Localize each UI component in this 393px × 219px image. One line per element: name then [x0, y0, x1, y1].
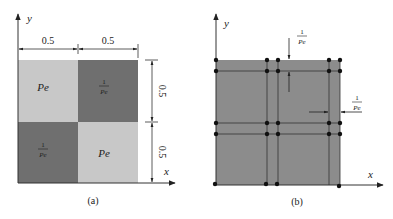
x-axis-label-b: x: [367, 168, 373, 180]
cell-frac-num: 1: [41, 141, 45, 149]
figure-a: y x 0.5 0.5 0.5 0.5 Pe 1 Pe 1 Pe Pe (a): [18, 12, 175, 207]
caption-a: (a): [87, 195, 98, 207]
cell-top-right: [78, 60, 138, 122]
x-axis-label-a: x: [163, 165, 169, 177]
dim-label-right-top: 0.5: [157, 85, 168, 98]
annot-right-num: 1: [355, 94, 359, 102]
dim-label-top-left: 0.5: [42, 35, 55, 46]
figure-canvas: y x 0.5 0.5 0.5 0.5 Pe 1 Pe 1 Pe Pe (a): [0, 0, 393, 219]
dim-label-top-right: 0.5: [102, 35, 115, 46]
annot-right-den: Pe: [352, 104, 360, 112]
y-axis-label-a: y: [26, 12, 32, 24]
cell-frac-den: Pe: [38, 151, 46, 159]
annot-top-den: Pe: [297, 38, 305, 46]
cell-label-top-left: Pe: [36, 81, 49, 93]
caption-b: (b): [291, 196, 303, 208]
cell-label-bottom-right: Pe: [97, 147, 110, 159]
y-axis-label-b: y: [223, 17, 229, 29]
dim-label-right-bottom: 0.5: [157, 146, 168, 159]
cell-frac-den: Pe: [99, 88, 107, 96]
annot-top-num: 1: [300, 28, 304, 36]
cell-bottom-left: [18, 122, 78, 183]
cell-frac-num: 1: [102, 78, 106, 86]
figure-b: y x 1 Pe 1 Pe (b): [213, 14, 383, 208]
